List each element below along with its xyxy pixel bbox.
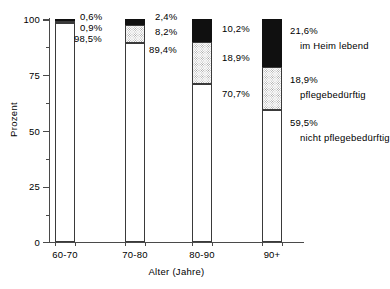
bar-80-90-segment-heim [192, 19, 212, 42]
y-tick-minor-12 [46, 215, 50, 216]
bar-80-90-label-nichtpflege: 70,7% [222, 88, 250, 99]
x-axis-title: Alter (Jahre) [49, 266, 304, 277]
y-tick-minor-37 [46, 159, 50, 160]
bar-70-80-segment-pflege [125, 25, 145, 43]
y-tick-label-0: 0 [0, 238, 40, 248]
bar-60-70-label-nichtpflege: 98,5% [74, 33, 102, 44]
x-axis-line [49, 242, 304, 243]
x-tick-5 [212, 242, 213, 246]
bar-90plus-label-pflege: 18,9% [290, 74, 318, 85]
legend-label-pflege: pflegebedürftig [300, 89, 366, 100]
y-tick-0 [43, 242, 49, 243]
legend-label-heim: im Heim lebend [300, 40, 369, 51]
bar-80-90-segment-pflege [192, 42, 212, 84]
y-tick-minor-87 [46, 47, 50, 48]
x-tick-2 [125, 242, 126, 246]
y-tick-minor-62 [46, 103, 50, 104]
x-tick-3 [145, 242, 146, 246]
y-axis-title: Prozent [8, 90, 19, 150]
y-axis-line [49, 18, 50, 243]
x-tick-label-80-90: 80-90 [172, 249, 232, 260]
bar-70-80-segment-nichtpflege [125, 43, 145, 242]
y-tick-75 [43, 75, 49, 76]
y-tick-label-75: 75 [0, 71, 40, 81]
y-tick-50 [43, 131, 49, 132]
x-tick-7 [282, 242, 283, 246]
x-tick-label-70-80: 70-80 [105, 249, 165, 260]
x-tick-label-90plus: 90+ [242, 249, 302, 260]
y-tick-25 [43, 187, 49, 188]
bar-80-90-label-pflege: 18,9% [222, 52, 250, 63]
bar-90plus-segment-heim [262, 19, 282, 67]
x-tick-1 [75, 242, 76, 246]
y-tick-label-50: 50 [0, 127, 40, 137]
bar-60-70-segment-nichtpflege [55, 23, 75, 242]
bar-90plus-label-nichtpflege: 59,5% [290, 117, 318, 128]
x-tick-label-60-70: 60-70 [35, 249, 95, 260]
legend-label-nichtpflege: nicht pflegebedürftig [300, 132, 390, 143]
bar-70-80-label-nichtpflege: 89,4% [149, 44, 177, 55]
x-tick-6 [262, 242, 263, 246]
bar-80-90-label-heim: 10,2% [222, 23, 250, 34]
x-tick-4 [192, 242, 193, 246]
y-tick-label-25: 25 [0, 182, 40, 192]
bar-90plus-segment-pflege [262, 67, 282, 109]
bar-60-70-label-pflege: 0,9% [80, 22, 102, 33]
bar-80-90 [192, 19, 212, 242]
bar-70-80-label-pflege: 8,2% [155, 26, 177, 37]
bar-60-70-label-heim: 0,6% [80, 11, 102, 22]
y-tick-label-100: 100 [0, 15, 40, 25]
bar-60-70 [55, 19, 75, 242]
y-tick-100 [43, 19, 49, 20]
bar-70-80 [125, 19, 145, 242]
bar-90plus-label-heim: 21,6% [290, 25, 318, 36]
x-tick-0 [55, 242, 56, 246]
bar-80-90-segment-nichtpflege [192, 84, 212, 241]
bar-70-80-label-heim: 2,4% [155, 11, 177, 22]
bar-90plus-segment-nichtpflege [262, 110, 282, 242]
bar-90plus [262, 19, 282, 242]
